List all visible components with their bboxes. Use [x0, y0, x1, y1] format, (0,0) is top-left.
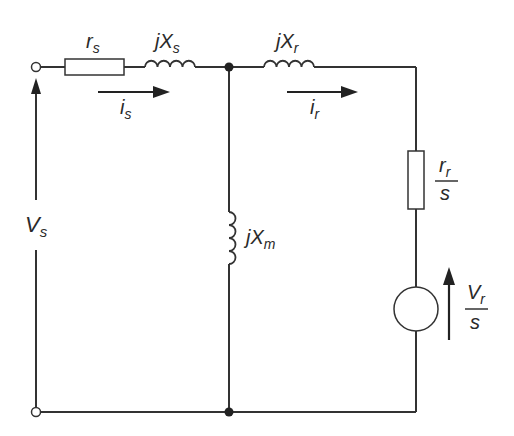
junction-bottom — [225, 408, 234, 417]
terminal-top — [32, 63, 41, 72]
is-arrow-head-icon — [153, 86, 170, 98]
vr-arrow-head-icon — [443, 267, 455, 285]
voltage-source-vr — [394, 287, 438, 331]
inductor-xr — [264, 61, 314, 67]
label-rr-denominator: s — [440, 182, 450, 204]
label-xs: jXs — [152, 30, 180, 56]
vs-arrow-head-icon — [31, 78, 41, 94]
inductor-xm — [229, 212, 236, 264]
label-vr-denominator: s — [470, 311, 480, 333]
ir-arrow-head-icon — [341, 86, 358, 98]
label-vs: Vs — [25, 212, 48, 240]
circuit-diagram: rs jXs jXr jXm rr s Vr s is ir Vs — [0, 0, 514, 436]
label-is: is — [120, 96, 131, 122]
label-xr: jXr — [273, 30, 300, 56]
junction-top — [225, 63, 234, 72]
resistor-rs — [65, 59, 124, 75]
resistor-rr — [408, 151, 424, 209]
inductor-xs — [145, 61, 195, 67]
label-vr-numerator: Vr — [467, 281, 486, 307]
label-xm: jXm — [243, 226, 276, 252]
label-rs: rs — [86, 30, 100, 56]
label-ir: ir — [310, 96, 320, 122]
terminal-bottom — [32, 408, 41, 417]
label-rr-numerator: rr — [439, 154, 452, 180]
